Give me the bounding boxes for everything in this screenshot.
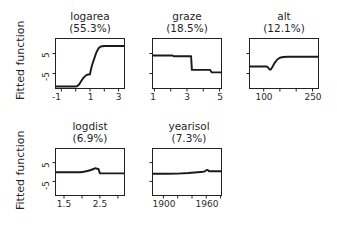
panel-alt-plot — [249, 38, 319, 89]
panel-alt-xticklabel-0: 100 — [251, 92, 277, 102]
panel-yearisol: yearisol (7.3%) 1900 1960 — [0, 0, 250, 231]
panel-yearisol-xticklabel-3: 1960 — [192, 199, 222, 209]
panel-yearisol-title-percent: (7.3%) — [152, 132, 226, 144]
fitted-function-figure: Fitted function logarea (55.3%) -1 1 3 5 — [0, 0, 337, 231]
panel-yearisol-curve — [152, 170, 222, 174]
panel-yearisol-title: yearisol (7.3%) — [152, 120, 226, 144]
panel-alt-title: alt (12.1%) — [249, 10, 319, 34]
panel-yearisol-xticklabel-0: 1900 — [149, 199, 179, 209]
panel-yearisol-title-variable: yearisol — [168, 120, 209, 132]
panel-yearisol-plot — [152, 148, 222, 196]
panel-alt-title-percent: (12.1%) — [249, 22, 319, 34]
panel-alt-xticklabel-3: 250 — [300, 92, 326, 102]
panel-alt-title-variable: alt — [277, 10, 290, 22]
panel-alt-curve — [249, 57, 319, 70]
